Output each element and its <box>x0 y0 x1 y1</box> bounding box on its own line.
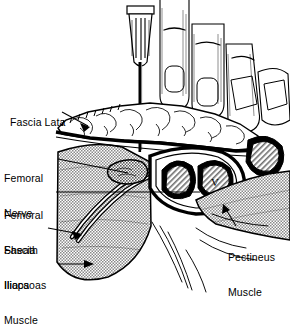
accessory-vessel <box>246 136 284 177</box>
vein-marker: V <box>211 176 219 188</box>
label-fascia-lata: Fascia Lata <box>4 105 65 128</box>
femoral-artery <box>162 161 196 199</box>
label-pectineus-muscle: Pectineus Muscle <box>228 229 275 310</box>
label-iliopsoas-muscle: Iliopsoas Muscle <box>4 257 46 328</box>
femoral-nerve-body <box>107 160 147 184</box>
